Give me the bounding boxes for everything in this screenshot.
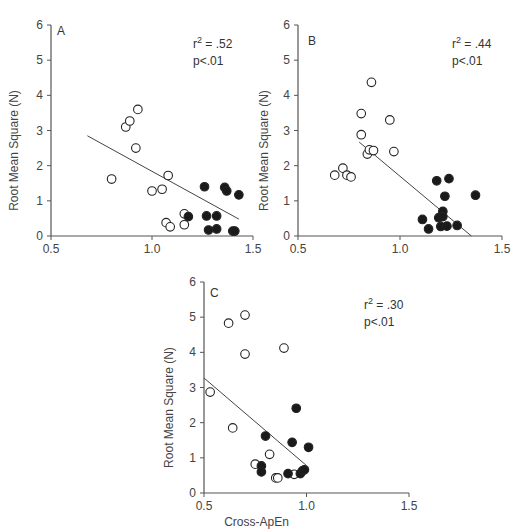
filled-data-point (453, 221, 462, 230)
x-tick-label: 1.0 (298, 499, 315, 513)
y-tick-label: 0 (189, 486, 196, 500)
open-data-point (367, 78, 376, 87)
r-squared-annotation: r2 = .44 (452, 35, 492, 51)
x-tick-label: 1.5 (494, 242, 511, 256)
y-tick-label: 2 (189, 416, 196, 430)
y-tick-label: 3 (36, 124, 43, 138)
filled-data-point (443, 222, 452, 231)
open-data-point (390, 147, 399, 156)
open-data-point (125, 117, 134, 126)
open-data-point (132, 144, 141, 153)
filled-data-point (261, 432, 270, 441)
x-tick-label: 0.5 (196, 499, 213, 513)
p-value-annotation: p<.01 (452, 54, 483, 68)
p-value-annotation: p<.01 (193, 54, 224, 68)
filled-data-point (231, 227, 240, 236)
y-axis-title: Root Mean Square (N) (162, 347, 176, 468)
open-data-point (158, 185, 167, 194)
filled-data-point (439, 212, 448, 221)
y-tick-label: 4 (189, 345, 196, 359)
y-tick-label: 2 (283, 159, 290, 173)
filled-data-point (235, 191, 244, 200)
x-tick-label: 1.5 (245, 242, 262, 256)
filled-data-point (445, 174, 454, 183)
panel-letter: C (210, 286, 219, 300)
regression-line (204, 378, 307, 466)
p-value-annotation: p<.01 (364, 315, 395, 329)
open-data-point (274, 474, 283, 483)
filled-data-point (257, 468, 266, 477)
figure: 01234560.51.01.5Root Mean Square (N)Ar2 … (0, 0, 525, 531)
y-tick-label: 3 (189, 381, 196, 395)
filled-data-point (212, 212, 221, 221)
filled-data-point (424, 225, 433, 234)
y-tick-label: 1 (283, 194, 290, 208)
filled-data-point (202, 212, 211, 221)
filled-data-point (292, 404, 301, 413)
open-data-point (330, 171, 339, 180)
x-tick-label: 0.5 (290, 242, 307, 256)
open-data-point (228, 424, 237, 433)
filled-data-point (300, 465, 309, 474)
open-data-point (347, 173, 356, 182)
open-data-point (241, 350, 250, 359)
open-data-point (369, 146, 378, 155)
r-squared-value: = .44 (461, 37, 492, 51)
y-tick-label: 2 (36, 159, 43, 173)
x-tick-label: 0.5 (43, 242, 60, 256)
open-data-point (107, 175, 116, 184)
filled-data-point (222, 187, 231, 196)
filled-data-point (204, 226, 213, 235)
open-data-point (224, 319, 233, 328)
y-tick-label: 5 (189, 310, 196, 324)
filled-data-point (304, 443, 313, 452)
filled-data-point (212, 225, 221, 234)
open-data-point (180, 220, 189, 229)
open-data-point (206, 388, 215, 397)
x-axis-title: Cross-ApEn (224, 515, 289, 529)
filled-data-point (441, 192, 450, 201)
y-tick-label: 4 (36, 88, 43, 102)
open-data-point (164, 171, 173, 180)
filled-data-point (432, 176, 441, 185)
scatter-panel-c: 01234560.51.01.5Root Mean Square (N)Cros… (162, 275, 418, 529)
filled-data-point (418, 215, 427, 224)
panel-letter: B (308, 34, 316, 48)
r-squared-annotation: r2 = .30 (364, 296, 404, 312)
y-tick-label: 1 (36, 194, 43, 208)
open-data-point (280, 344, 289, 353)
scatter-panel-b: 01234560.51.01.5Root Mean Square (N)Br2 … (257, 18, 511, 256)
y-tick-label: 6 (283, 18, 290, 32)
r-squared-annotation: r2 = .52 (193, 35, 233, 51)
open-data-point (386, 116, 395, 125)
open-data-point (134, 105, 143, 114)
r-squared-value: = .52 (202, 37, 233, 51)
y-tick-label: 1 (189, 451, 196, 465)
y-tick-label: 4 (283, 88, 290, 102)
y-axis-title: Root Mean Square (N) (257, 90, 271, 211)
filled-data-point (184, 212, 193, 221)
open-data-point (166, 223, 175, 232)
y-tick-label: 5 (36, 53, 43, 67)
y-tick-label: 6 (36, 18, 43, 32)
open-data-point (148, 187, 157, 196)
y-axis-title: Root Mean Square (N) (7, 90, 21, 211)
filled-data-point (471, 191, 480, 200)
filled-data-point (200, 182, 209, 191)
scatter-panel-a: 01234560.51.01.5Root Mean Square (N)Ar2 … (7, 18, 262, 256)
r-squared-value: = .30 (373, 298, 404, 312)
y-tick-label: 0 (36, 229, 43, 243)
open-data-point (241, 311, 250, 320)
panel-letter: A (57, 24, 65, 38)
y-tick-label: 6 (189, 275, 196, 289)
filled-data-point (288, 438, 297, 447)
open-data-point (357, 109, 366, 118)
x-tick-label: 1.5 (401, 499, 418, 513)
y-tick-label: 0 (283, 229, 290, 243)
open-data-point (357, 130, 366, 139)
x-tick-label: 1.0 (144, 242, 161, 256)
y-tick-label: 5 (283, 53, 290, 67)
open-data-point (265, 450, 274, 459)
x-tick-label: 1.0 (392, 242, 409, 256)
filled-data-point (284, 469, 293, 478)
